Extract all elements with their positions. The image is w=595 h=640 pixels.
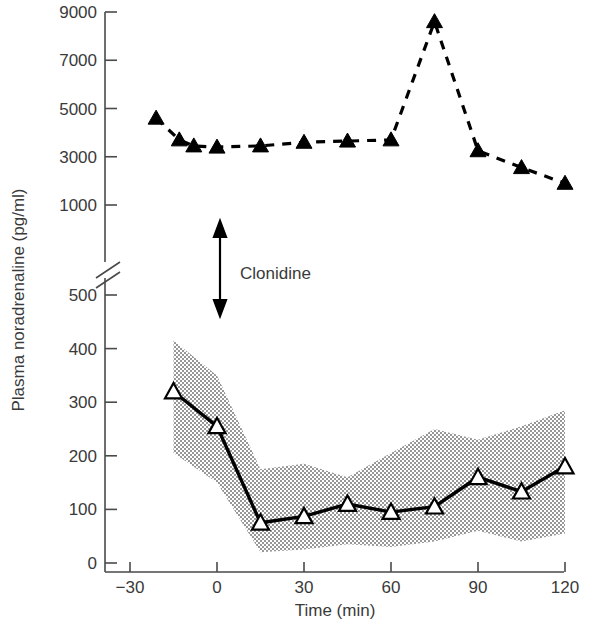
x-tick-label: 90: [469, 578, 488, 597]
x-tick-label: 30: [295, 578, 314, 597]
series-upper-markers: [148, 14, 573, 190]
x-tick-label: 0: [212, 578, 221, 597]
y-tick-label: 1000: [59, 196, 97, 215]
y-tick-label: 0: [88, 554, 97, 573]
data-point-marker-filled-triangle: [148, 110, 164, 124]
x-tick-label: 120: [551, 578, 579, 597]
y-ticks-upper: [105, 12, 117, 205]
x-tick-label: 60: [382, 578, 401, 597]
chart-canvas: 100030005000700090000100200300400500 −30…: [0, 0, 595, 640]
clonidine-arrow-up-head-icon: [214, 221, 226, 237]
y-tick-labels: 100030005000700090000100200300400500: [59, 3, 97, 573]
y-tick-label: 5000: [59, 100, 97, 119]
clonidine-annotation: Clonidine: [214, 221, 311, 316]
y-tick-label: 400: [69, 340, 97, 359]
y-tick-label: 500: [69, 286, 97, 305]
y-tick-label: 300: [69, 393, 97, 412]
axis-break-icon: [96, 262, 120, 288]
y-axis-title: Plasma noradrenaline (pg/ml): [9, 189, 28, 412]
series-upper-polyline: [156, 22, 565, 184]
x-ticks: [130, 562, 565, 572]
series-upper-group: [148, 14, 573, 190]
data-point-marker-filled-triangle: [427, 14, 443, 28]
y-ticks-lower: [105, 295, 117, 563]
x-tick-labels: −300306090120: [116, 578, 580, 597]
clonidine-label: Clonidine: [240, 264, 311, 283]
y-tick-label: 3000: [59, 148, 97, 167]
x-axis-line: [105, 563, 564, 572]
data-point-marker-filled-triangle: [470, 143, 486, 157]
x-axis-title: Time (min): [295, 601, 376, 620]
data-point-marker-filled-triangle: [296, 134, 312, 148]
y-tick-label: 200: [69, 447, 97, 466]
y-tick-label: 9000: [59, 3, 97, 22]
data-point-marker-filled-triangle: [557, 175, 573, 189]
y-axis-group: 100030005000700090000100200300400500: [59, 3, 120, 573]
clonidine-arrow-down-head-icon: [214, 300, 226, 316]
x-tick-label: −30: [116, 578, 145, 597]
chart-figure: 100030005000700090000100200300400500 −30…: [0, 0, 595, 640]
sd-shaded-band: [174, 341, 566, 553]
x-axis-group: −300306090120: [105, 562, 579, 597]
y-tick-label: 7000: [59, 51, 97, 70]
y-tick-label: 100: [69, 500, 97, 519]
sd-band-group: [174, 341, 566, 553]
